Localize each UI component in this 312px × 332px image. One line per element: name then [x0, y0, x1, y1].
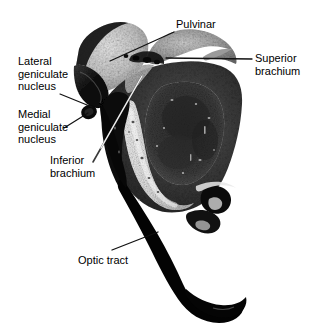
- label-inferior-brachium: Inferior brachium: [50, 154, 95, 179]
- label-medial-geniculate-nucleus: Medial geniculate nucleus: [18, 108, 68, 146]
- groove-node-c: [154, 60, 160, 65]
- groove-node-a: [133, 55, 140, 60]
- anatomical-figure: Pulvinar Superior brachium Lateral genic…: [0, 0, 312, 332]
- groove-node-b: [143, 57, 151, 63]
- label-lateral-geniculate-nucleus: Lateral geniculate nucleus: [18, 55, 68, 93]
- label-superior-brachium: Superior brachium: [255, 52, 300, 77]
- core-mottle-b: [158, 135, 198, 169]
- label-pulvinar: Pulvinar: [176, 18, 216, 31]
- core-mottle-c: [192, 120, 218, 160]
- label-optic-tract: Optic tract: [78, 254, 128, 267]
- specimen-image: [0, 0, 312, 332]
